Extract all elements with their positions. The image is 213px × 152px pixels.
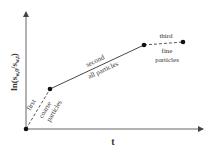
label-first: first: [25, 98, 38, 112]
y-axis-label: ln(sw,0/sw,t): [9, 53, 20, 91]
point-1: [48, 87, 53, 92]
x-axis-label: t: [111, 136, 115, 147]
drying-stages-diagram: ln(sw,0/sw,t) t first coarse particles s…: [0, 0, 213, 152]
point-origin: [24, 127, 29, 132]
segment-third-dashed: [144, 42, 183, 45]
segment-second-solid: [50, 45, 144, 89]
label-third-fine: fine: [162, 47, 173, 55]
label-third: third: [159, 32, 173, 40]
point-2: [142, 43, 147, 48]
point-3: [181, 40, 186, 45]
label-third-particles: particles: [155, 56, 179, 64]
